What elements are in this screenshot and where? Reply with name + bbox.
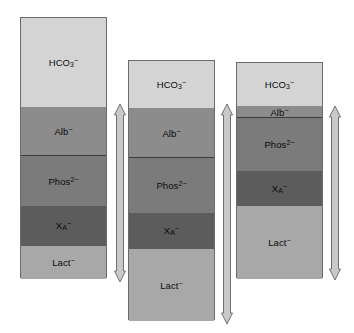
segment-label-text: Phos [156,180,178,191]
double-headed-arrow-icon [112,104,128,282]
segment-label-text: HCO [265,79,286,90]
segment-label-superscript: 2− [70,176,78,183]
segment-label-lactate: Lact− [160,280,183,290]
segment-label-text: Alb [162,128,176,139]
segment-label-albumin: Alb− [54,126,72,136]
segment-label-superscript: − [182,79,186,86]
segment-lact: Lact− [237,206,322,279]
segment-label-superscript: − [290,79,294,86]
segment-label-bicarbonate: HCO3− [49,57,79,68]
double-headed-arrow-icon [219,104,235,324]
segment-label-unmeasured: XA− [272,183,287,194]
column-1: HCO3−Alb−Phos2−XA−Lact− [20,17,107,278]
segment-xa: XA− [21,206,106,246]
segment-label-superscript: − [68,126,72,133]
segment-hco3: HCO3− [237,63,322,106]
segment-label-phosphate: Phos2− [264,139,294,149]
column-2: HCO3−Alb−Phos2−XA−Lact− [128,60,215,320]
segment-label-superscript: − [74,57,78,64]
segment-label-text: HCO [157,79,178,90]
segment-label-bicarbonate: HCO3− [157,79,187,90]
segment-lact: Lact− [21,246,106,279]
segment-xa: XA− [237,171,322,206]
segment-label-superscript: − [284,107,288,114]
segment-label-superscript: − [287,237,291,244]
segment-label-superscript: − [179,280,183,287]
segment-label-superscript: − [67,220,71,227]
segment-label-bicarbonate: HCO3− [265,79,295,90]
segment-label-albumin: Alb− [162,128,180,138]
segment-label-unmeasured: XA− [164,225,179,236]
segment-label-phosphate: Phos2− [48,176,78,186]
segment-hco3: HCO3− [21,18,106,107]
segment-alb: Alb− [129,108,214,158]
double-headed-arrow-icon [327,106,343,280]
segment-label-lactate: Lact− [268,237,291,247]
segment-label-albumin: Alb− [270,107,288,117]
segment-label-unmeasured: XA− [56,220,71,231]
segment-label-superscript: − [71,257,75,264]
segment-label-superscript: − [283,183,287,190]
segment-label-text: Phos [48,176,70,187]
column-3: HCO3−Alb−Phos2−XA−Lact− [236,62,323,278]
segment-label-text: Alb [54,126,68,137]
segment-label-superscript: 2− [178,180,186,187]
segment-xa: XA− [129,213,214,249]
segment-label-lactate: Lact− [52,257,75,267]
segment-label-superscript: 2− [286,139,294,146]
segment-label-phosphate: Phos2− [156,180,186,190]
segment-lact: Lact− [129,249,214,321]
segment-phos: Phos2− [129,158,214,213]
segment-alb: Alb− [21,107,106,156]
segment-label-text: Lact [268,237,286,248]
segment-hco3: HCO3− [129,61,214,108]
segment-phos: Phos2− [21,156,106,206]
anion-gap-stacked-bar-figure: HCO3−Alb−Phos2−XA−Lact−HCO3−Alb−Phos2−XA… [0,0,354,333]
segment-phos: Phos2− [237,118,322,171]
segment-label-superscript: − [176,128,180,135]
segment-label-text: HCO [49,57,70,68]
segment-label-text: Lact [160,280,178,291]
segment-label-superscript: − [175,225,179,232]
segment-label-text: Lact [52,257,70,268]
segment-label-text: Phos [264,139,286,150]
